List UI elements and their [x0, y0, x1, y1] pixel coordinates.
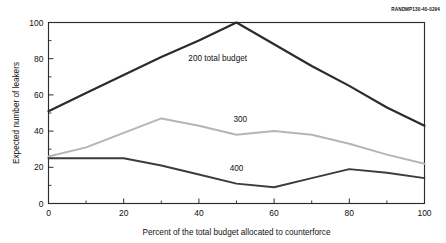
x-axis-tick-label: 100 [417, 208, 431, 218]
rand-document-id: RANDMP130-40-0294 [391, 7, 440, 12]
y-axis-tick-label: 0 [39, 199, 44, 209]
y-axis-tick-label: 40 [34, 126, 44, 136]
y-axis-title: Expected number of leakers [12, 62, 21, 164]
series-label-300: 300 [233, 115, 247, 124]
y-axis-tick-label: 80 [34, 54, 44, 64]
series-line-200 [49, 23, 425, 126]
x-axis-tick-label: 0 [46, 208, 51, 218]
plot-frame [49, 23, 425, 204]
x-axis-title: Percent of the total budget allocated to… [143, 228, 331, 237]
y-axis-tick-label: 100 [29, 18, 43, 28]
x-axis-tick-label: 20 [119, 208, 129, 218]
series-label-400: 400 [230, 164, 244, 173]
line-chart: 020406080100020406080100200 total budget… [0, 0, 446, 243]
x-axis-tick-label: 80 [345, 208, 355, 218]
figure-container: RANDMP130-40-0294 0204060801000204060801… [0, 0, 446, 243]
series-line-300 [49, 118, 425, 163]
y-axis-tick-label: 20 [34, 162, 44, 172]
x-axis-tick-label: 60 [269, 208, 279, 218]
y-axis-tick-label: 60 [34, 90, 44, 100]
series-label-200: 200 total budget [188, 54, 247, 63]
x-axis-tick-label: 40 [194, 208, 204, 218]
